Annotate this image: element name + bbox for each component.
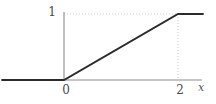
x-tick-label-2: 2 — [174, 84, 186, 96]
x-axis-name-label: x — [198, 82, 204, 94]
y-tick-label-1: 1 — [44, 6, 56, 18]
ramp-curve — [1, 14, 203, 80]
x-tick-label-0: 0 — [60, 84, 72, 96]
ramp-function-figure: 1 0 2 x — [0, 0, 216, 104]
